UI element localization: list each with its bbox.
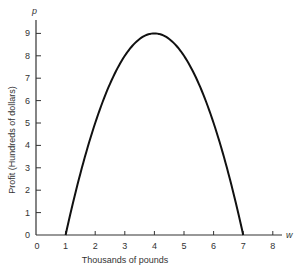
y-axis-ticks: 0123456789 bbox=[25, 28, 41, 240]
x-axis-title: Thousands of pounds bbox=[82, 255, 169, 265]
x-tick-label: 8 bbox=[270, 241, 275, 251]
x-tick-label: 4 bbox=[152, 241, 157, 251]
profit-chart: 012345678 0123456789 p w Thousands of po… bbox=[0, 0, 301, 273]
x-tick-label: 3 bbox=[122, 241, 127, 251]
y-tick-label: 0 bbox=[25, 230, 30, 240]
x-tick-label: 0 bbox=[34, 241, 39, 251]
y-tick-label: 1 bbox=[25, 208, 30, 218]
y-tick-label: 2 bbox=[25, 185, 30, 195]
y-tick-label: 4 bbox=[25, 140, 30, 150]
y-tick-label: 7 bbox=[25, 73, 30, 83]
x-axis-symbol: w bbox=[286, 230, 293, 240]
y-tick-label: 3 bbox=[25, 163, 30, 173]
y-tick-label: 6 bbox=[25, 96, 30, 106]
x-tick-label: 6 bbox=[211, 241, 216, 251]
x-tick-label: 2 bbox=[93, 241, 98, 251]
y-axis-symbol: p bbox=[31, 6, 37, 16]
x-axis-ticks: 012345678 bbox=[34, 231, 275, 251]
x-tick-label: 5 bbox=[181, 241, 186, 251]
y-tick-label: 9 bbox=[25, 28, 30, 38]
profit-curve bbox=[66, 33, 244, 235]
x-tick-label: 7 bbox=[241, 241, 246, 251]
y-tick-label: 8 bbox=[25, 51, 30, 61]
x-tick-label: 1 bbox=[63, 241, 68, 251]
y-axis-title: Profit (Hundreds of dollars) bbox=[7, 86, 17, 194]
y-tick-label: 5 bbox=[25, 118, 30, 128]
